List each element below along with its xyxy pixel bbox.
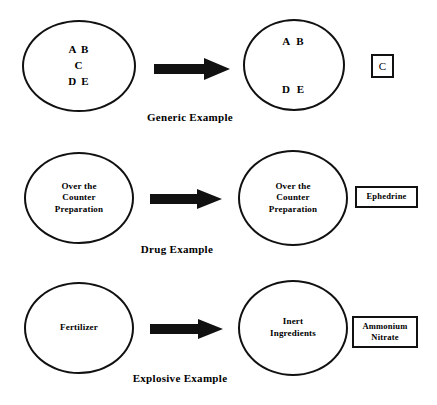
source-circle-drug-label: Over the Counter Preparation — [47, 181, 112, 216]
transform-arrow-explosive — [150, 319, 223, 339]
source-circle-explosive[interactable]: Fertilizer — [24, 282, 134, 374]
extracted-box-drug-label: Ephedrine — [366, 191, 406, 202]
process-flow-diagram: A B C D E A B D E C Generic Example Over… — [0, 0, 437, 405]
caption-generic: Generic Example — [115, 111, 265, 123]
caption-drug: Drug Example — [112, 243, 242, 255]
result-circle-explosive-label: Inert Ingredients — [262, 316, 324, 339]
result-circle-drug[interactable]: Over the Counter Preparation — [238, 150, 348, 246]
result-circle-generic-label: A B D E — [274, 29, 314, 102]
source-circle-generic[interactable]: A B C D E — [22, 20, 136, 112]
extracted-box-explosive-label: Ammonium Nitrate — [362, 321, 407, 343]
result-circle-explosive[interactable]: Inert Ingredients — [238, 280, 348, 376]
caption-explosive: Explosive Example — [100, 372, 260, 384]
transform-arrow-drug — [150, 189, 222, 209]
extracted-box-generic[interactable]: C — [371, 54, 394, 78]
source-circle-generic-label: A B C D E — [60, 42, 98, 90]
source-circle-drug[interactable]: Over the Counter Preparation — [24, 152, 134, 244]
diagram-row-explosive: Fertilizer Inert Ingredients Ammonium Ni… — [0, 267, 437, 405]
extracted-box-explosive[interactable]: Ammonium Nitrate — [352, 316, 418, 348]
diagram-row-drug: Over the Counter Preparation Over the Co… — [0, 135, 437, 267]
result-circle-generic[interactable]: A B D E — [243, 19, 345, 111]
source-circle-explosive-label: Fertilizer — [52, 322, 106, 334]
extracted-box-drug[interactable]: Ephedrine — [355, 186, 418, 208]
diagram-row-generic: A B C D E A B D E C Generic Example — [0, 0, 437, 135]
transform-arrow-generic — [154, 58, 230, 80]
extracted-box-generic-label: C — [379, 59, 386, 73]
result-circle-drug-label: Over the Counter Preparation — [261, 181, 326, 216]
